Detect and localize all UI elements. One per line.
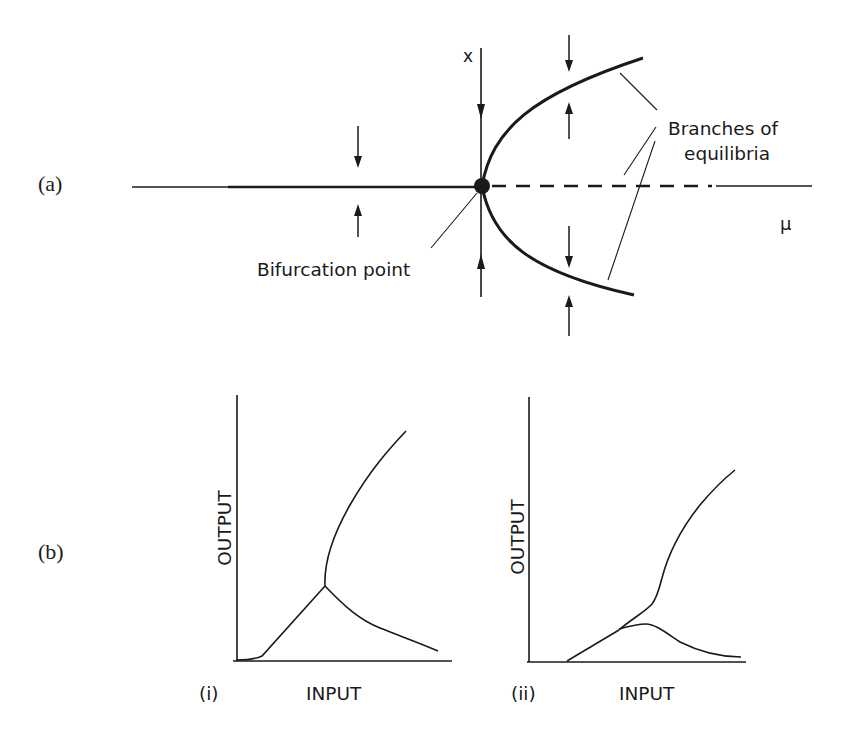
panel-a-label: (a) xyxy=(38,171,62,196)
panel-b-label: (b) xyxy=(38,539,64,564)
leader-line-upper xyxy=(620,73,657,110)
figure-canvas: (a) x μ xyxy=(0,0,850,745)
leader-line-lower xyxy=(608,141,655,280)
arrow-up-icon xyxy=(565,295,573,307)
panel-b: (b) OUTPUT INPUT (i) OUTPUT INPUT (ii) xyxy=(38,395,746,704)
arrow-down-icon xyxy=(565,60,573,72)
x-axis-label: x xyxy=(463,46,473,66)
arrow-down-on-axis xyxy=(477,104,485,119)
mu-axis-label: μ xyxy=(780,213,792,234)
left-stability-arrows xyxy=(354,126,362,237)
subplot-ii-initial-rise xyxy=(567,630,619,661)
subplot-i-label: (i) xyxy=(199,683,219,704)
right-lower-stability-arrows xyxy=(565,226,573,336)
subplot-ii: OUTPUT INPUT (ii) xyxy=(507,397,746,704)
arrow-down-icon xyxy=(565,256,573,268)
bifurcation-point-label: Bifurcation point xyxy=(257,259,410,280)
subplot-i-lower-branch xyxy=(325,586,438,651)
subplot-ii-xlabel: INPUT xyxy=(619,683,675,704)
bifurcation-pointer-line xyxy=(431,193,477,248)
subplot-ii-upper-branch xyxy=(619,470,735,630)
arrow-up-icon xyxy=(565,102,573,114)
upper-equilibrium-branch xyxy=(482,58,643,186)
subplot-i: OUTPUT INPUT (i) xyxy=(199,395,452,704)
arrow-up-icon xyxy=(354,204,362,216)
arrow-up-on-axis xyxy=(477,254,485,269)
branches-label-line2: equilibria xyxy=(684,143,770,164)
bifurcation-point-dot xyxy=(474,178,490,194)
subplot-i-upper-branch xyxy=(325,431,406,586)
panel-a: (a) x μ xyxy=(38,35,812,336)
subplot-ii-lower-branch xyxy=(619,624,741,657)
lower-equilibrium-branch xyxy=(482,186,634,295)
arrow-down-icon xyxy=(354,156,362,168)
subplot-i-pre-bifurcation-curve xyxy=(236,586,325,660)
branches-label-line1: Branches of xyxy=(668,118,778,139)
subplot-ii-label: (ii) xyxy=(511,683,536,704)
subplot-i-ylabel: OUTPUT xyxy=(214,490,235,566)
subplot-i-xlabel: INPUT xyxy=(306,683,362,704)
subplot-ii-ylabel: OUTPUT xyxy=(507,499,528,575)
